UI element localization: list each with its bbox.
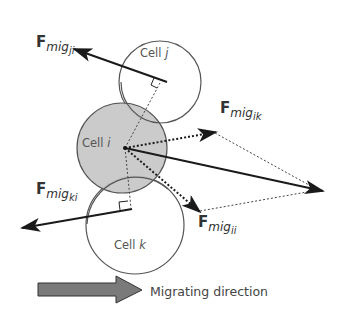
- cell-i-label: Cell i: [82, 136, 110, 150]
- legend-label: Migrating direction: [150, 284, 268, 299]
- migrating-direction-arrow-icon: [38, 276, 142, 303]
- cell-j-label: Cell j: [140, 46, 168, 60]
- cell-k-label: Cell k: [114, 238, 146, 252]
- parallelogram-line-1: [215, 133, 318, 190]
- cell-i-center: [123, 146, 127, 150]
- parallelogram-line-2: [200, 190, 318, 211]
- force-label-ki: Fmigki: [36, 180, 77, 198]
- force-label-ik: Fmigik: [220, 99, 261, 117]
- force-label-ii: Fmigii: [198, 213, 236, 231]
- force-label-ji: Fmigji: [36, 33, 74, 51]
